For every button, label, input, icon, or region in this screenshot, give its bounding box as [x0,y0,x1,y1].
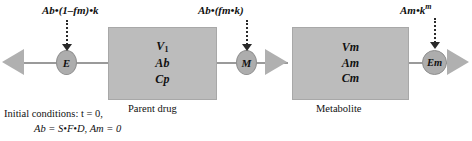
caption-metabolite: Metabolite [316,103,362,114]
dotted-arrow-head-metabolism-icon [242,44,252,51]
flow-line-elimination-out [22,62,60,64]
parent-concentration-symbol: Cp [155,72,169,88]
flux-label-metabolite-formation: Ab•(fm•k) [198,4,244,16]
initial-conditions-line-1: Initial conditions: t = 0, [4,106,121,121]
metabolite-amount-symbol: Am [342,56,360,72]
compartment-parent-drug: V1 Ab Cp [108,27,217,100]
node-elimination-e: E [56,50,77,75]
arrow-left-icon [2,49,24,75]
dotted-arrow-stem-elimination [66,20,68,45]
initial-conditions: Initial conditions: t = 0, Ab = S•F•D, A… [4,106,121,136]
initial-conditions-line-2: Ab = S•F•D, Am = 0 [4,121,121,136]
arrow-right-middle-icon [265,49,287,75]
dotted-arrow-head-metabolite-elimination-icon [430,42,440,49]
node-metabolism-m: M [236,50,257,75]
node-metabolite-elimination-em: Em [422,50,447,75]
caption-parent-drug: Parent drug [128,103,177,114]
dotted-arrow-stem-metabolism [246,20,248,45]
arrow-right-end-icon [447,49,469,75]
flux-metabolite-formation-base: Ab•(fm•k) [198,4,244,16]
pharmacokinetic-model-diagram: V1 Ab Cp Vm Am Cm Parent drug Metabolite… [0,0,472,141]
dotted-arrow-stem-metabolite-elimination [434,18,436,43]
flux-metabolite-elimination-superscript: m [425,2,431,11]
node-m-label: M [242,57,252,69]
parent-volume-subscript: 1 [165,45,169,54]
flux-label-elimination: Ab•(1–fm)•k [42,4,99,16]
flux-label-metabolite-elimination: Am•km [400,2,431,16]
flow-line-e-to-parent [74,62,110,64]
flux-metabolite-elimination-base: Am•k [400,4,425,16]
node-em-label: Em [427,57,442,68]
metabolite-concentration-symbol: Cm [342,71,360,87]
flux-elimination-base: Ab•(1–fm)•k [42,4,99,16]
compartment-metabolite: Vm Am Cm [292,27,409,100]
dotted-arrow-head-elimination-icon [62,44,72,51]
metabolite-volume-symbol: Vm [342,40,360,56]
node-e-label: E [63,57,70,69]
parent-volume-symbol: V1 [156,39,168,56]
parent-amount-symbol: Ab [155,56,169,72]
